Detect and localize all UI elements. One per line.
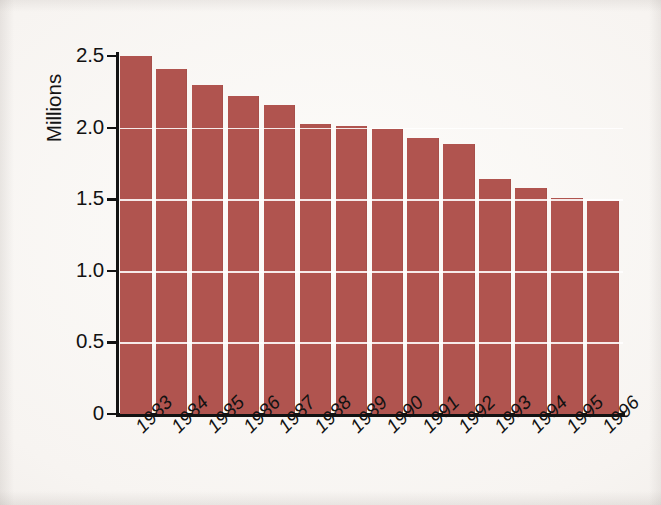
scanned-page: Millions 2.52.01.51.00.50 19831984198519… [0, 0, 661, 505]
bar-fill [336, 126, 368, 414]
plot-area [120, 48, 623, 414]
bar-fill [156, 69, 188, 414]
bar-fill [300, 124, 332, 414]
bar-fill [407, 138, 439, 414]
bar-fill [587, 201, 619, 414]
y-tick-mark [107, 413, 117, 415]
y-tick-label-1.0: 1.0 [42, 258, 104, 282]
y-tick-label-0: 0 [42, 401, 104, 425]
bar-fill [372, 129, 404, 414]
bar-fill [228, 96, 260, 414]
bar-fill [264, 105, 296, 414]
bar-fill [443, 144, 475, 414]
y-tick-label-2.0: 2.0 [42, 115, 104, 139]
bar-fill [120, 56, 152, 414]
bar-fill [479, 179, 511, 414]
bar-chart: Millions 2.52.01.51.00.50 19831984198519… [0, 0, 661, 505]
y-tick-mark [107, 127, 117, 129]
bar-fill [515, 188, 547, 414]
y-tick-mark [107, 55, 117, 57]
bar-fill [192, 85, 224, 414]
y-axis-line [116, 52, 119, 415]
y-tick-label-1.5: 1.5 [42, 186, 104, 210]
bar-fill [551, 198, 583, 414]
y-tick-label-0.5: 0.5 [42, 329, 104, 353]
y-tick-mark [107, 270, 117, 272]
y-tick-mark [107, 341, 117, 343]
y-tick-mark [107, 198, 117, 200]
y-tick-label-2.5: 2.5 [42, 43, 104, 67]
